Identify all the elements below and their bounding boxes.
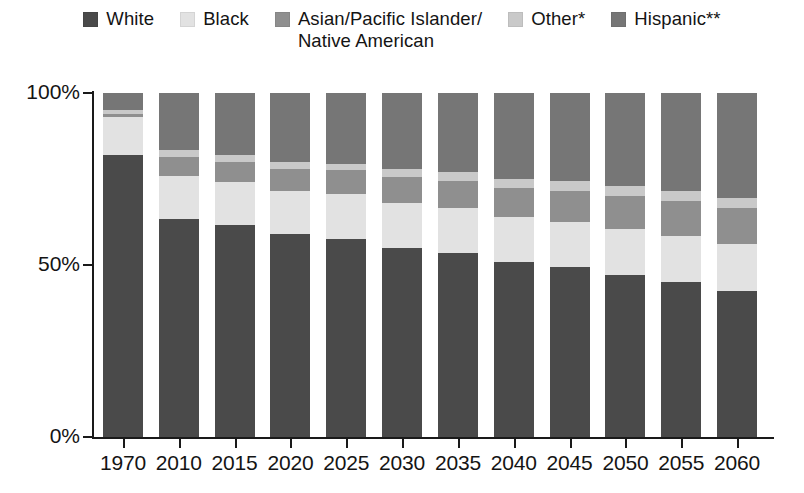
bar-segment[interactable] — [159, 93, 199, 150]
bar-segment[interactable] — [605, 186, 645, 196]
stacked-bar[interactable] — [550, 93, 590, 437]
bar-segment[interactable] — [438, 93, 478, 172]
bar-segment[interactable] — [717, 244, 757, 290]
bar-segment[interactable] — [605, 229, 645, 275]
legend-swatch-black — [180, 12, 195, 27]
bar-segment[interactable] — [605, 93, 645, 186]
bar-segment[interactable] — [159, 157, 199, 176]
bar-column — [494, 93, 534, 437]
legend-item-black: Black — [180, 8, 249, 30]
x-tick-label: 2030 — [372, 451, 432, 475]
bar-segment[interactable] — [270, 169, 310, 191]
x-tick-mark — [290, 439, 292, 448]
bar-segment[interactable] — [494, 188, 534, 217]
y-tick-label: 100% — [8, 80, 80, 104]
legend-label-asian: Asian/Pacific Islander/ Native American — [298, 8, 482, 52]
bar-segment[interactable] — [270, 191, 310, 234]
bar-segment[interactable] — [103, 117, 143, 155]
bar-segment[interactable] — [382, 93, 422, 169]
bar-segment[interactable] — [717, 198, 757, 208]
legend-item-asian-pacific-islander-native-american: Asian/Pacific Islander/ Native American — [275, 8, 482, 52]
bar-segment[interactable] — [215, 225, 255, 437]
bar-segment[interactable] — [661, 93, 701, 191]
bar-segment[interactable] — [550, 93, 590, 181]
bar-segment[interactable] — [494, 179, 534, 188]
bar-column — [270, 93, 310, 437]
stacked-bar[interactable] — [270, 93, 310, 437]
x-axis-line — [92, 437, 774, 439]
x-tick-label: 2020 — [260, 451, 320, 475]
bar-segment[interactable] — [382, 248, 422, 437]
bar-segment[interactable] — [159, 150, 199, 157]
bar-column — [550, 93, 590, 437]
legend-label-other: Other* — [531, 8, 585, 30]
bar-segment[interactable] — [717, 93, 757, 198]
bar-segment[interactable] — [382, 203, 422, 248]
bar-column — [438, 93, 478, 437]
bar-column — [605, 93, 645, 437]
bar-segment[interactable] — [215, 155, 255, 162]
legend-item-hispanic: Hispanic** — [611, 8, 720, 30]
plot-area — [95, 93, 765, 437]
bar-segment[interactable] — [438, 172, 478, 181]
bar-segment[interactable] — [270, 234, 310, 437]
stacked-bar[interactable] — [159, 93, 199, 437]
x-tick-mark — [737, 439, 739, 448]
bar-segment[interactable] — [494, 262, 534, 437]
stacked-bar[interactable] — [605, 93, 645, 437]
bar-segment[interactable] — [661, 191, 701, 201]
stacked-bar[interactable] — [494, 93, 534, 437]
stacked-bar[interactable] — [382, 93, 422, 437]
stacked-bar[interactable] — [661, 93, 701, 437]
bar-segment[interactable] — [382, 169, 422, 178]
x-tick-mark — [514, 439, 516, 448]
bar-segment[interactable] — [550, 181, 590, 191]
bar-segment[interactable] — [215, 93, 255, 155]
y-tick-mark — [83, 264, 92, 266]
x-tick-label: 2055 — [651, 451, 711, 475]
x-tick-mark — [346, 439, 348, 448]
bar-segment[interactable] — [382, 177, 422, 203]
bar-segment[interactable] — [550, 191, 590, 222]
bar-column — [382, 93, 422, 437]
bar-segment[interactable] — [270, 93, 310, 162]
bar-segment[interactable] — [326, 170, 366, 194]
x-tick-label: 1970 — [93, 451, 153, 475]
bar-segment[interactable] — [661, 201, 701, 235]
bar-segment[interactable] — [326, 194, 366, 239]
bar-segment[interactable] — [605, 275, 645, 437]
bar-segment[interactable] — [103, 93, 143, 110]
bar-column — [215, 93, 255, 437]
y-tick-label: 50% — [8, 252, 80, 276]
bar-segment[interactable] — [550, 222, 590, 267]
x-tick-mark — [235, 439, 237, 448]
stacked-bar[interactable] — [717, 93, 757, 437]
bar-segment[interactable] — [717, 208, 757, 244]
bar-column — [103, 93, 143, 437]
bar-segment[interactable] — [717, 291, 757, 437]
bar-segment[interactable] — [438, 181, 478, 209]
bar-segment[interactable] — [605, 196, 645, 229]
stacked-bar[interactable] — [326, 93, 366, 437]
bar-segment[interactable] — [270, 162, 310, 169]
bar-segment[interactable] — [494, 217, 534, 262]
stacked-bar-chart: White Black Asian/Pacific Islander/ Nati… — [0, 0, 804, 493]
bar-segment[interactable] — [159, 176, 199, 219]
bar-segment[interactable] — [661, 236, 701, 282]
bar-segment[interactable] — [215, 182, 255, 225]
bar-segment[interactable] — [103, 155, 143, 437]
bar-segment[interactable] — [326, 93, 366, 164]
bar-segment[interactable] — [438, 208, 478, 253]
stacked-bar[interactable] — [438, 93, 478, 437]
legend-swatch-asian — [275, 12, 290, 27]
bar-segment[interactable] — [215, 162, 255, 183]
bar-segment[interactable] — [550, 267, 590, 437]
stacked-bar[interactable] — [215, 93, 255, 437]
bar-segment[interactable] — [661, 282, 701, 437]
bar-segment[interactable] — [326, 239, 366, 437]
stacked-bar[interactable] — [103, 93, 143, 437]
bar-segment[interactable] — [159, 219, 199, 437]
bar-segment[interactable] — [438, 253, 478, 437]
bar-segment[interactable] — [326, 164, 366, 171]
bar-segment[interactable] — [494, 93, 534, 179]
